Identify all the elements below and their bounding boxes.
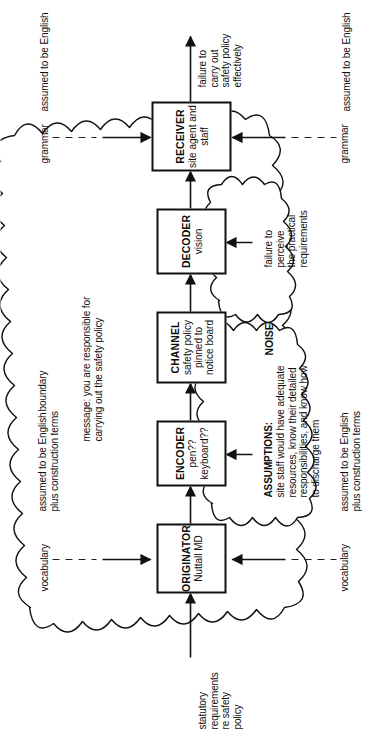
box-receiver[interactable]: RECEIVER site agent and staff	[151, 101, 231, 171]
input-label-statutory-requirements: statutory requirements re safety policy	[196, 633, 242, 729]
assumptions-cloud-body: site staff would have adequate resources…	[274, 365, 320, 497]
label-vocabulary-bottom: vocabulary	[338, 544, 350, 591]
box-originator[interactable]: ORIGINATOR Nuttall MD	[156, 523, 226, 593]
box-channel[interactable]: CHANNEL safety policy pinned to notice b…	[156, 311, 226, 383]
noise-tag: NOISE	[262, 323, 274, 355]
box-receiver-title: RECEIVER	[173, 109, 185, 163]
box-encoder-title: ENCODER	[173, 426, 185, 479]
label-english-right-top: assumed to be English	[38, 12, 50, 111]
label-english-left-bottom: assumed to be English plus construction …	[338, 410, 361, 511]
box-channel-subtitle: safety policy pinned to notice board	[181, 313, 215, 381]
label-vocabulary-top: vocabulary	[38, 544, 50, 591]
label-grammar-top: grammar	[38, 124, 50, 163]
label-english-right-bottom: assumed to be English	[340, 12, 352, 111]
box-originator-subtitle: Nuttall MD	[192, 535, 203, 582]
assumptions-cloud-heading: ASSUMPTIONS:	[262, 422, 274, 497]
box-originator-title: ORIGINATOR	[179, 524, 191, 591]
label-message: message: you are responsible for carryin…	[80, 296, 103, 441]
perception-cloud-body: failure to perceive the practical requir…	[262, 210, 308, 267]
label-grammar-bottom: grammar	[338, 124, 350, 163]
box-encoder-subtitle: pen?? keyboard??	[186, 422, 208, 484]
box-decoder-title: DECODER	[179, 214, 191, 267]
output-label-failure-to-carry-out: failure to carry out safety policy effec…	[196, 0, 242, 87]
box-decoder-subtitle: vision	[192, 228, 203, 254]
box-channel-title: CHANNEL	[168, 321, 180, 373]
box-receiver-subtitle: site agent and staff	[186, 103, 208, 169]
boundary-label: boundary	[36, 370, 48, 411]
label-english-left-top: assumed to be English plus construction …	[36, 410, 59, 511]
box-decoder[interactable]: DECODER vision	[156, 208, 226, 274]
box-encoder[interactable]: ENCODER pen?? keyboard??	[156, 420, 226, 486]
